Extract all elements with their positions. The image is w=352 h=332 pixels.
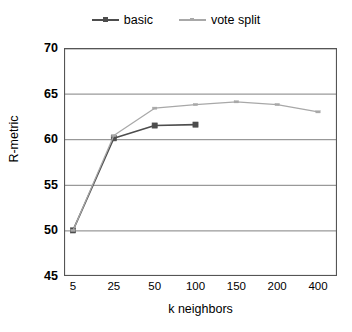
x-tick-label: 400 xyxy=(298,281,338,293)
x-tick-label: 100 xyxy=(176,281,216,293)
chart-figure: basic vote split R-metric 706560555045 5… xyxy=(0,0,352,332)
x-tick-label: 200 xyxy=(257,281,297,293)
x-tick-labels: 52550100150200400 xyxy=(0,0,352,332)
x-tick-label: 50 xyxy=(135,281,175,293)
x-tick-label: 150 xyxy=(216,281,256,293)
x-tick-label: 25 xyxy=(94,281,134,293)
x-axis-title: k neighbors xyxy=(64,302,337,316)
x-tick-label: 5 xyxy=(53,281,93,293)
